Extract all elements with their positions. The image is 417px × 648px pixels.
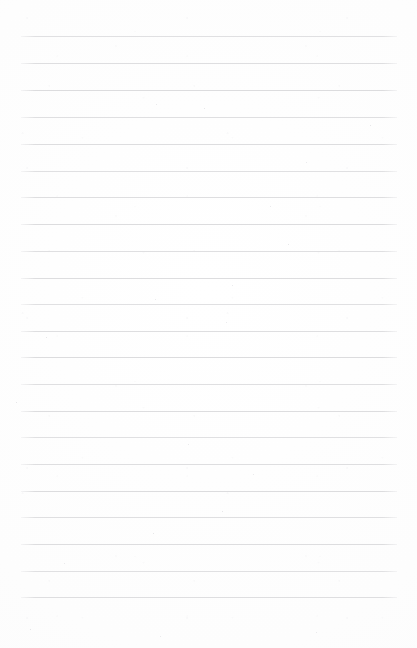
paper-speck: [30, 629, 31, 630]
lined-paper-page: [0, 0, 417, 648]
paper-speck: [316, 632, 317, 633]
page-content-area[interactable]: [21, 36, 397, 598]
paper-speck: [160, 636, 161, 637]
